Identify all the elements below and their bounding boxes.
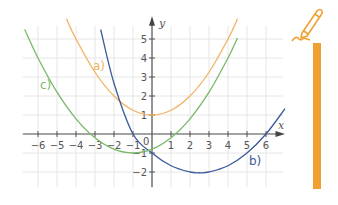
grid xyxy=(23,26,283,188)
label-b: b) xyxy=(249,154,261,168)
y-axis-label: y xyxy=(158,17,166,30)
pencil-bar-decoration xyxy=(313,43,321,189)
label-a: a) xyxy=(93,59,105,73)
x-axis-label: x xyxy=(278,119,285,132)
origin-label: 0 xyxy=(143,136,149,147)
x-tick-label: 4 xyxy=(225,140,231,151)
x-tick-label: −4 xyxy=(69,140,84,151)
x-tick-label: 1 xyxy=(168,140,174,151)
x-tick-label: 6 xyxy=(263,140,269,151)
pencil-icon xyxy=(290,5,324,47)
axes: −6−5−4−3−2−1123456−2−112345 xyxy=(23,16,285,187)
function-graph: −6−5−4−3−2−1123456−2−112345 a) c) b) x y… xyxy=(0,0,300,205)
x-tick-label: 5 xyxy=(244,140,250,151)
y-tick-label: 4 xyxy=(141,53,147,64)
y-tick-label: 1 xyxy=(141,110,147,121)
x-tick-label: 2 xyxy=(187,140,193,151)
x-tick-label: −5 xyxy=(50,140,65,151)
label-c: c) xyxy=(40,78,51,92)
x-tick-label: 3 xyxy=(206,140,212,151)
curve-b xyxy=(101,30,285,173)
y-tick-label: 3 xyxy=(141,72,147,83)
y-tick-label: −2 xyxy=(132,167,147,178)
y-tick-label: 2 xyxy=(141,91,147,102)
y-tick-label: 5 xyxy=(141,34,147,45)
x-tick-label: −6 xyxy=(31,140,46,151)
